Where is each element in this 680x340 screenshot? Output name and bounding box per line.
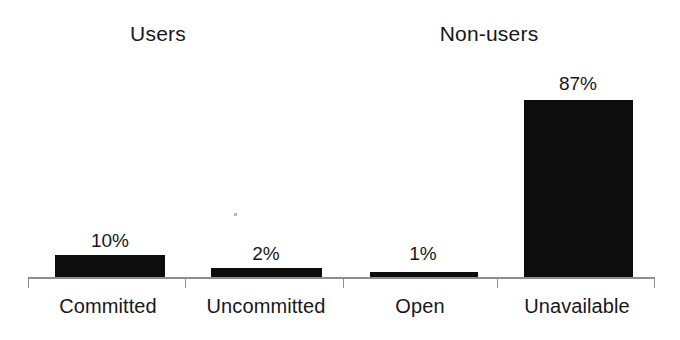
value-label-unavailable: 87% [559, 73, 597, 95]
category-label-uncommitted: Uncommitted [207, 295, 326, 318]
axis-tick-start [28, 279, 29, 288]
value-label-committed: 10% [91, 230, 129, 252]
bar-chart: Users Non-users 10% 2% 1% 87% Committed … [0, 0, 680, 340]
axis-tick-end [654, 279, 655, 288]
axis-tick-1 [185, 279, 186, 288]
bar-uncommitted [211, 268, 322, 277]
scan-artifact-speck [234, 213, 237, 216]
group-title-users: Users [130, 22, 186, 46]
category-label-unavailable: Unavailable [524, 295, 630, 318]
axis-tick-3 [497, 279, 498, 288]
group-title-nonusers: Non-users [440, 22, 539, 46]
bar-unavailable [524, 100, 633, 277]
category-label-committed: Committed [59, 295, 157, 318]
category-label-open: Open [395, 295, 444, 318]
value-label-open: 1% [409, 243, 436, 265]
axis-tick-2 [343, 279, 344, 288]
x-axis-line [28, 277, 655, 279]
bar-committed [55, 255, 165, 277]
value-label-uncommitted: 2% [252, 243, 279, 265]
